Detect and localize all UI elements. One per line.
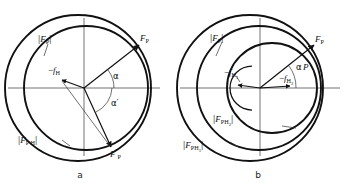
panel-b-label-FP: FP: [314, 34, 325, 45]
panel-a-caption: a: [77, 170, 83, 180]
panel-a-label-FP-magnitude: |FP|: [38, 32, 51, 45]
panel-a-label-FPH-magnitude: |FP H|: [18, 133, 37, 146]
panel-a-label-minus-fH: −fH: [48, 65, 61, 76]
panel-b-label-minus-fH1: −fH1: [224, 67, 239, 80]
panel-a-angle-alpha-prime-arc: [96, 88, 112, 112]
panel-a-vector-FP: [84, 45, 139, 88]
panel-a-label-alpha-prime: α′: [111, 98, 119, 108]
figure-container: |FP| FP −fH α α′ |FP H| F′P a: [0, 0, 344, 186]
panel-b: |FP| FP −fH1 −fH2 αP |FPH2| |FPH1| b: [177, 15, 340, 180]
panel-b-caption: b: [255, 170, 261, 180]
panel-b-leader-FP-magnitude: [216, 42, 222, 56]
panel-b-label-FPH1-magnitude: |FPH1|: [183, 138, 203, 153]
panel-a-vector-FP-prime: [84, 88, 111, 147]
panel-b-label-FPH2-magnitude: |FPH2|: [213, 112, 233, 127]
panel-a-vector-minus-fH: [62, 80, 84, 88]
panel-a-label-FP: FP: [139, 33, 150, 44]
panel-b-leader-FPH1: [230, 142, 240, 148]
panel-b-vector-minus-fH1: [238, 85, 260, 88]
force-circle-diagram: |FP| FP −fH α α′ |FP H| F′P a: [0, 0, 344, 186]
panel-b-label-FP-magnitude: |FP|: [210, 31, 223, 44]
panel-a-vector-FPH: [62, 81, 110, 146]
panel-a-label-alpha: α: [113, 71, 119, 81]
panel-b-label-alphaP: αP: [296, 62, 309, 72]
panel-a-leader-FP-magnitude: [44, 44, 48, 56]
panel-b-label-minus-fH2: −fH2: [279, 73, 294, 86]
panel-a: |FP| FP −fH α α′ |FP H| F′P a: [5, 15, 160, 180]
